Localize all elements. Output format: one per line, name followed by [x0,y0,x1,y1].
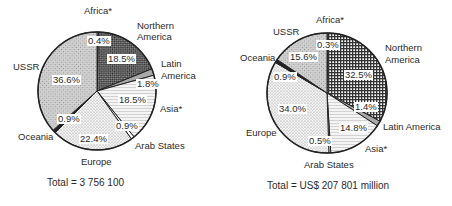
label-asia: Asia* [160,103,182,114]
pct-africa: 0.3% [316,40,340,50]
label-europe: Europe [81,156,112,167]
pct-europe: 22.4% [79,134,108,144]
label-arab-states: Arab States [304,159,354,170]
label-arab-states: Arab States [135,140,185,151]
pie-left-svg [0,0,226,206]
pct-northern-america: 32.5% [344,70,373,80]
pie-right-svg [226,0,452,206]
label-northern-america-line1: Northern [137,20,174,31]
label-latin-america: Latin America [383,121,441,132]
pct-ussr: 15.6% [289,52,318,62]
label-ussr: USSR [13,61,39,72]
label-northern-america-line1: Northern [385,42,422,53]
label-latin-america-line1: Latin [161,58,182,69]
pct-latin-america: 1.8% [136,79,160,89]
label-oceania: Oceania [18,131,53,142]
total-label: Total = US$ 207 801 million [267,180,389,191]
pct-oceania: 0.9% [273,72,297,82]
label-africa: Africa* [316,14,344,25]
pct-oceania: 0.9% [57,114,81,124]
label-latin-america-line2: America [161,70,196,81]
label-asia: Asia* [365,143,387,154]
label-africa: Africa* [84,5,112,16]
label-europe: Europe [246,127,277,138]
pct-ussr: 36.6% [52,75,81,85]
total-label: Total = 3 756 100 [47,177,124,188]
pct-asia: 18.5% [118,95,147,105]
pct-northern-america: 18.5% [107,54,136,64]
pct-arab-states: 0.9% [115,121,139,131]
pie-chart-expenditure: Africa* USSR Oceania Northern America La… [226,0,452,206]
pct-europe: 34.0% [278,104,307,114]
pie-chart-population: Africa* Northern America Latin America A… [0,0,226,206]
label-oceania: Oceania [240,52,275,63]
label-ussr: USSR [273,26,299,37]
label-northern-america-line2: America [137,31,172,42]
pct-asia: 14.8% [339,123,368,133]
pct-latin-america: 1.4% [354,102,378,112]
label-northern-america-line2: America [385,54,420,65]
pct-africa: 0.4% [87,36,111,46]
pct-arab-states: 0.5% [308,136,332,146]
